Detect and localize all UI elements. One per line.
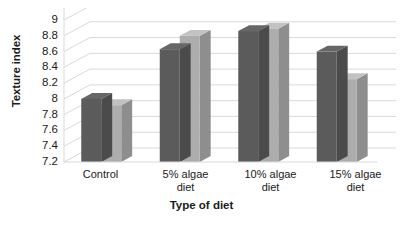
plot-svg xyxy=(60,8,396,166)
bar-dark-group-1 xyxy=(160,43,191,162)
bar-front-face xyxy=(238,31,258,162)
y-axis-tick-label: 7.2 xyxy=(22,156,58,167)
y-axis-tick-label: 7.4 xyxy=(22,140,58,151)
bar-side-face xyxy=(200,30,211,162)
x-axis-tick-label-line1: 15% algae xyxy=(313,168,398,181)
x-axis-tick-label: Control xyxy=(58,168,143,198)
bar-side-face xyxy=(357,73,368,162)
y-axis-tick-label: 8.4 xyxy=(22,61,58,72)
x-axis-tick-label: 5% algaediet xyxy=(143,168,228,198)
bar-side-face xyxy=(101,93,112,162)
x-axis-title: Type of diet xyxy=(0,199,403,211)
bar-dark-group-3 xyxy=(317,46,348,162)
gridline-depth xyxy=(64,8,90,20)
y-axis-tick-label: 8.2 xyxy=(22,77,58,88)
y-axis-tick-label: 8.8 xyxy=(22,30,58,41)
bar-side-face xyxy=(337,46,348,162)
plot-area xyxy=(60,8,396,166)
gridline-depth xyxy=(64,22,90,36)
bar-side-face xyxy=(180,43,191,162)
bar-front-face xyxy=(81,99,101,162)
x-axis-tick-label-line2: diet xyxy=(313,181,398,194)
bar-front-face xyxy=(160,49,180,162)
y-axis-tick-label: 8.6 xyxy=(22,46,58,57)
y-axis-tick-label: 7.6 xyxy=(22,124,58,135)
x-axis-tick-label-line1: Control xyxy=(58,168,143,181)
bar-side-face xyxy=(121,99,132,162)
y-axis-tick-label: 8 xyxy=(22,93,58,104)
gridline-depth xyxy=(64,69,90,83)
y-axis-tick-label: 9 xyxy=(22,14,58,25)
bar-side-face xyxy=(278,23,289,162)
gridline-depth xyxy=(64,53,90,67)
bar-dark-group-2 xyxy=(238,25,269,162)
gridline-depth xyxy=(64,38,90,52)
bar-front-face xyxy=(317,52,337,162)
x-axis-tick-labels: Control5% algaediet10% algaediet15% alga… xyxy=(58,168,398,198)
x-axis-tick-label-line2: diet xyxy=(143,181,228,194)
texture-index-bar-chart: Texture index 98.88.68.48.287.87.67.47.2… xyxy=(0,0,403,225)
x-axis-tick-label-line1: 5% algae xyxy=(143,168,228,181)
bar-side-face xyxy=(258,25,269,162)
x-axis-tick-label-line1: 10% algae xyxy=(228,168,313,181)
y-axis-tick-label: 7.8 xyxy=(22,109,58,120)
bar-dark-group-0 xyxy=(81,93,112,162)
x-axis-tick-label-line2: diet xyxy=(228,181,313,194)
y-axis-tick-labels: 98.88.68.48.287.87.67.47.2 xyxy=(22,0,58,225)
x-axis-tick-label: 10% algaediet xyxy=(228,168,313,198)
x-axis-tick-label: 15% algaediet xyxy=(313,168,398,198)
